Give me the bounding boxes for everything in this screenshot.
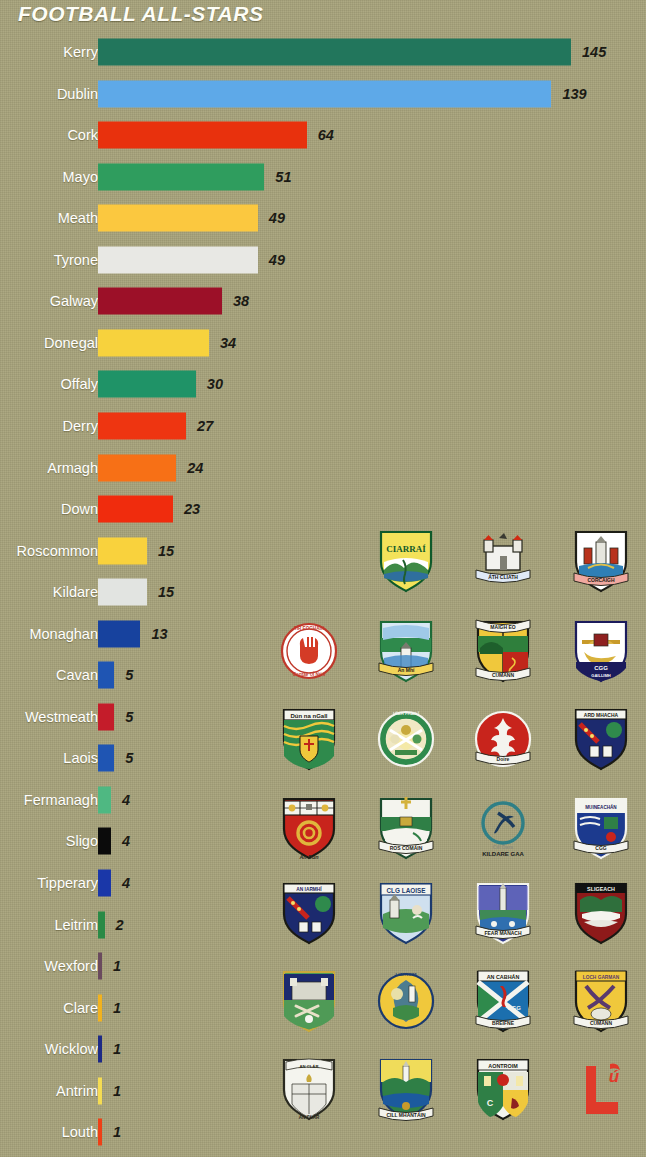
- antrim-crest-icon: AONTROIMC: [472, 1056, 534, 1122]
- svg-text:BREIFNE: BREIFNE: [492, 1020, 515, 1026]
- down-crest-icon: An Dún: [278, 795, 340, 861]
- county-crest-grid: CIARRAÍÁTH CLIATHCORCAIGHTÍR EOGHAINCont…: [0, 0, 646, 1157]
- svg-text:C: C: [487, 1098, 494, 1108]
- louth-crest-icon: ú: [570, 1056, 632, 1122]
- westmeath-crest-icon: AN IARMHÍ: [278, 880, 340, 946]
- donegal-crest-icon: Dún na nGall: [278, 706, 340, 772]
- offaly-crest-icon: UÍBH FHAILÍ: [375, 706, 437, 772]
- svg-text:SLIGEACH: SLIGEACH: [587, 886, 615, 892]
- wexford-crest-icon: LOCH GARMANCUMANN: [570, 968, 632, 1034]
- cork-crest-icon: CORCAIGH: [570, 528, 632, 594]
- svg-text:ú: ú: [609, 1067, 620, 1086]
- svg-text:UÍBH FHAILÍ: UÍBH FHAILÍ: [393, 711, 420, 716]
- svg-text:CGG: CGG: [595, 845, 607, 851]
- svg-text:AN CABHÁN: AN CABHÁN: [487, 974, 520, 980]
- svg-text:ARD MHACHA: ARD MHACHA: [584, 712, 619, 718]
- svg-text:AN CLÁR: AN CLÁR: [300, 1064, 319, 1069]
- tyrone-crest-icon: TÍR EOGHAINContae UÍ Néill: [278, 618, 340, 684]
- svg-text:CGG: CGG: [507, 1005, 521, 1011]
- svg-text:KILDARE GAA: KILDARE GAA: [482, 851, 524, 857]
- roscommon-crest-icon: ROS COMÁIN: [375, 795, 437, 861]
- wicklow-crest-icon: CILL MHANTÁIN: [375, 1056, 437, 1122]
- kerry-crest-icon: CIARRAÍ: [375, 528, 437, 594]
- svg-text:Doire: Doire: [497, 756, 510, 762]
- svg-text:Dún na nGall: Dún na nGall: [290, 713, 327, 719]
- svg-text:CUMANN: CUMANN: [590, 1020, 613, 1026]
- svg-text:GAILLIMH: GAILLIMH: [591, 673, 610, 678]
- svg-text:CUMANN: CUMANN: [492, 672, 515, 678]
- svg-text:MUINEACHÁN: MUINEACHÁN: [585, 804, 617, 810]
- svg-text:ROS COMÁIN: ROS COMÁIN: [390, 845, 423, 851]
- svg-text:LIATROIM: LIATROIM: [396, 972, 417, 977]
- clare-crest-icon: AN CLÁRAN CLÁR: [278, 1056, 340, 1122]
- svg-text:CIARRAÍ: CIARRAÍ: [386, 544, 426, 554]
- svg-text:CLG LAOISE: CLG LAOISE: [386, 887, 426, 894]
- svg-text:MAIGH EO: MAIGH EO: [490, 624, 515, 630]
- galway-crest-icon: CGGGAILLIMH: [570, 618, 632, 684]
- svg-text:An Dún: An Dún: [298, 854, 319, 860]
- derry-crest-icon: Doire: [472, 706, 534, 772]
- svg-text:Cill Dara: Cill Dara: [493, 844, 514, 850]
- armagh-crest-icon: ARD MHACHA: [570, 706, 632, 772]
- laois-crest-icon: CLG LAOISE: [375, 880, 437, 946]
- svg-text:FEAR MANACH: FEAR MANACH: [484, 930, 522, 936]
- kildare-crest-icon: Cill DaraKILDARE GAA: [472, 795, 534, 861]
- svg-text:AN CLÁR: AN CLÁR: [299, 1114, 320, 1120]
- leitrim-crest-icon: LIATROIM: [375, 968, 437, 1034]
- tipperary-crest-icon: [278, 968, 340, 1034]
- meath-crest-icon: An Mhí: [375, 618, 437, 684]
- svg-text:Contae UÍ Néill: Contae UÍ Néill: [293, 670, 325, 677]
- dublin-crest-icon: ÁTH CLIATH: [472, 528, 534, 594]
- monaghan-crest-icon: MUINEACHÁNCGG: [570, 795, 632, 861]
- svg-text:LOCH GARMAN: LOCH GARMAN: [583, 975, 620, 980]
- svg-text:CILL MHANTÁIN: CILL MHANTÁIN: [386, 1112, 425, 1118]
- svg-text:CGG: CGG: [594, 665, 608, 671]
- svg-text:An Mhí: An Mhí: [398, 667, 415, 673]
- svg-text:TÍR EOGHAIN: TÍR EOGHAIN: [294, 624, 325, 631]
- cavan-crest-icon: AN CABHÁNCGGBREIFNE: [472, 968, 534, 1034]
- svg-text:AN IARMHÍ: AN IARMHÍ: [296, 885, 322, 892]
- svg-text:ÁTH CLIATH: ÁTH CLIATH: [488, 574, 518, 580]
- mayo-crest-icon: MAIGH EOCUMANN: [472, 618, 534, 684]
- svg-text:AONTROIM: AONTROIM: [488, 1063, 518, 1069]
- sligo-crest-icon: SLIGEACH: [570, 880, 632, 946]
- svg-text:CORCAIGH: CORCAIGH: [587, 577, 615, 583]
- fermanagh-crest-icon: FEAR MANACH: [472, 880, 534, 946]
